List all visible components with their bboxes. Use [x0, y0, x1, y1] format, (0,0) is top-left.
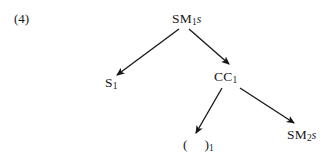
node-s1: S1	[105, 76, 117, 92]
node-cc1-base: CC	[214, 69, 232, 84]
arrow-layer	[0, 0, 336, 162]
edge-root-to-s1	[117, 29, 179, 75]
node-paren-subscript: 1	[209, 143, 214, 153]
node-sm2s: SM2s	[287, 128, 316, 144]
node-paren-open: (	[183, 137, 188, 152]
tree-diagram-figure: (4) SM1s S1 CC1 ()1 SM2s	[0, 0, 336, 162]
node-root-suffix: s	[197, 13, 202, 25]
node-root-sm1s: SM1s	[172, 12, 201, 28]
node-root-base: SM	[172, 11, 192, 26]
node-sm2s-base: SM	[287, 127, 307, 142]
node-sm2s-suffix: s	[312, 129, 317, 141]
edge-cc1-to-sm2s	[240, 88, 294, 123]
node-cc1-subscript: 1	[232, 75, 237, 85]
edge-cc1-to-paren	[196, 88, 222, 133]
node-empty-parentheses: ()1	[183, 138, 214, 154]
edge-root-to-cc1	[189, 29, 229, 64]
node-cc1: CC1	[214, 70, 237, 86]
node-s1-subscript: 1	[113, 81, 118, 91]
node-s1-base: S	[105, 75, 113, 90]
